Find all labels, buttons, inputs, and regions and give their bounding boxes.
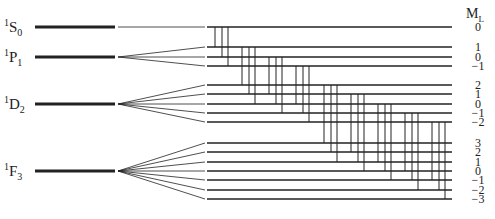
fan-line bbox=[118, 104, 205, 113]
fan-line bbox=[118, 94, 205, 104]
fan-line bbox=[118, 104, 205, 122]
ml-value-label: −2 bbox=[468, 116, 488, 128]
fan-line bbox=[118, 152, 205, 171]
term-label-D: 1D2 bbox=[4, 95, 25, 115]
term-label-S: 1S0 bbox=[4, 18, 22, 38]
fan-line bbox=[118, 57, 205, 66]
fan-line bbox=[118, 171, 205, 190]
energy-level-diagram bbox=[0, 0, 495, 219]
fan-line bbox=[118, 47, 205, 57]
ml-value-label: −3 bbox=[468, 193, 488, 205]
ml-axis-header: ML bbox=[466, 6, 484, 24]
term-label-P: 1P1 bbox=[4, 48, 22, 68]
term-label-F: 1F3 bbox=[4, 162, 22, 182]
fan-line bbox=[118, 85, 205, 104]
ml-value-label: −1 bbox=[468, 60, 488, 72]
